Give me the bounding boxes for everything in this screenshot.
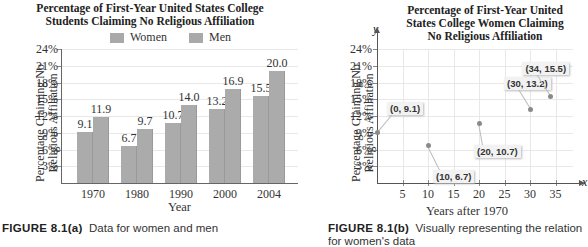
gridline bbox=[428, 49, 429, 183]
legend-item-women: Women bbox=[110, 30, 167, 45]
x-axis-label: Years after 1970 bbox=[377, 204, 557, 219]
y-tick-label: 12% bbox=[22, 110, 58, 122]
data-point-label: (0, 9.1) bbox=[387, 102, 423, 115]
figure-number: FIGURE 8.1(a) bbox=[2, 222, 83, 234]
legend-swatch bbox=[189, 33, 203, 43]
legend-item-men: Men bbox=[189, 30, 231, 45]
legend-label: Women bbox=[130, 30, 167, 45]
y-tick-label: 24% bbox=[22, 43, 58, 55]
gridline bbox=[403, 49, 404, 183]
bar-women-1970 bbox=[77, 132, 93, 183]
title-line: No Religious Affiliation bbox=[390, 30, 580, 43]
y-tick-label: 15% bbox=[336, 93, 372, 105]
y-tick-label: 15% bbox=[22, 93, 58, 105]
data-point-label: (10, 6.7) bbox=[433, 170, 474, 183]
x-tick-label: 35 bbox=[536, 188, 576, 200]
figure-number: FIGURE 8.1(b) bbox=[328, 222, 409, 234]
caption-text: Data for women and men bbox=[89, 222, 218, 234]
legend-swatch bbox=[110, 33, 124, 43]
x-axis-label: Year bbox=[61, 200, 298, 215]
gridline bbox=[454, 49, 455, 183]
bar-women-2000 bbox=[209, 109, 225, 183]
caption-text-line2: for women's data bbox=[328, 235, 415, 247]
data-point bbox=[477, 121, 482, 126]
x-axis-var: x bbox=[582, 175, 587, 190]
x-tick-label: 1970 bbox=[73, 188, 113, 200]
gridline bbox=[377, 99, 573, 100]
caption-a: FIGURE 8.1(a) Data for women and men bbox=[2, 222, 218, 234]
data-point bbox=[375, 130, 380, 135]
bar-men-2000 bbox=[225, 89, 241, 183]
data-point bbox=[426, 143, 431, 148]
bar-value-label: 11.9 bbox=[84, 103, 118, 115]
x-axis-line bbox=[377, 183, 581, 184]
y-tick-label: 24% bbox=[336, 43, 372, 55]
y-tick-label: 9% bbox=[22, 127, 58, 139]
x-axis-line bbox=[61, 183, 298, 184]
scatter-chart-title: Percentage of First-Year United States C… bbox=[390, 4, 580, 43]
y-tick-label: 6% bbox=[336, 144, 372, 156]
x-tick-label: 1990 bbox=[161, 188, 201, 200]
bar-women-1990 bbox=[165, 123, 181, 183]
bar-value-label: 20.0 bbox=[260, 57, 294, 69]
y-tick-label: 12% bbox=[336, 110, 372, 122]
y-tick-label: 6% bbox=[22, 144, 58, 156]
x-tick-label: 1980 bbox=[117, 188, 157, 200]
y-tick-label: 21% bbox=[336, 60, 372, 72]
gridline bbox=[505, 49, 506, 183]
data-point bbox=[548, 94, 553, 99]
title-line: Percentage of First-Year United bbox=[390, 4, 580, 17]
y-tick-label: 18% bbox=[336, 77, 372, 89]
bar-women-1980 bbox=[121, 146, 137, 183]
bar-women-2004 bbox=[253, 96, 269, 183]
plot-area: 9.111.96.79.710.714.013.216.915.520.0 bbox=[61, 49, 298, 183]
bar-chart-title: Percentage of First-Year United States C… bbox=[0, 2, 300, 28]
gridline bbox=[377, 166, 573, 167]
y-axis-line bbox=[61, 49, 62, 183]
gridline bbox=[377, 116, 573, 117]
y-axis-line bbox=[377, 31, 378, 183]
plot-area: (0, 9.1)(10, 6.7)(20, 10.7)(30, 13.2)(34… bbox=[377, 49, 581, 183]
y-tick-label: 9% bbox=[336, 127, 372, 139]
x-tick-label: 2004 bbox=[249, 188, 289, 200]
caption-text: Visually representing the relation bbox=[416, 222, 583, 234]
caption-b: FIGURE 8.1(b) Visually representing the … bbox=[328, 222, 582, 234]
title-line: Students Claiming No Religious Affiliati… bbox=[0, 15, 300, 28]
bar-men-2004 bbox=[269, 71, 285, 183]
title-line: Percentage of First-Year United States C… bbox=[0, 2, 300, 15]
title-line: States College Women Claiming bbox=[390, 17, 580, 30]
legend-label: Men bbox=[209, 30, 231, 45]
y-tick-label: 18% bbox=[22, 77, 58, 89]
y-tick-label: 3% bbox=[336, 160, 372, 172]
gridline bbox=[479, 49, 480, 183]
gridline bbox=[377, 49, 573, 50]
data-point-label: (20, 10.7) bbox=[474, 145, 521, 158]
bar-men-1970 bbox=[93, 117, 109, 183]
gridline bbox=[377, 133, 573, 134]
data-point bbox=[528, 107, 533, 112]
y-tick-label: 3% bbox=[22, 160, 58, 172]
gridline bbox=[61, 49, 298, 50]
bar-men-1990 bbox=[181, 105, 197, 183]
x-tick-label: 2000 bbox=[205, 188, 245, 200]
bar-men-1980 bbox=[137, 129, 153, 183]
y-tick-label: 21% bbox=[22, 60, 58, 72]
legend: Women Men bbox=[110, 30, 231, 45]
y-axis-arrow-icon bbox=[374, 27, 380, 33]
data-point-label: (34, 15.5) bbox=[522, 62, 569, 75]
